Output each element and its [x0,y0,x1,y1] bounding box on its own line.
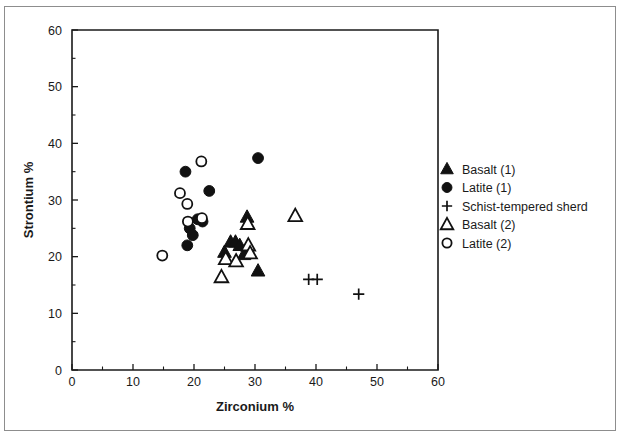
data-point [183,217,193,227]
data-point [253,153,264,164]
y-tick-label: 0 [55,364,62,378]
data-point [180,166,191,177]
data-point [251,264,265,276]
x-tick-label: 0 [69,375,76,389]
legend-item: Basalt (1) [441,162,516,176]
scatter-plot: 0102030405060 0102030405060 Basalt (1)La… [0,0,624,445]
data-point [204,186,215,197]
figure-container: 0102030405060 0102030405060 Basalt (1)La… [0,0,624,445]
series-schist-tempered-sherd [303,274,364,300]
x-tick-label: 30 [248,375,262,389]
data-point [182,199,192,209]
legend-marker-filled-triangle [441,162,454,173]
x-tick-labels: 0102030405060 [69,375,445,389]
data-points [157,153,364,300]
legend-marker-plus [442,201,452,211]
legend-label: Latite (2) [462,237,511,251]
x-tick-label: 60 [431,375,445,389]
legend: Basalt (1)Latite (1)Schist-tempered sher… [441,162,588,250]
axis-ticks [72,30,438,370]
legend-item: Latite (1) [442,181,511,195]
y-tick-labels: 0102030405060 [48,24,62,378]
data-point [197,213,207,223]
y-tick-label: 40 [48,137,62,151]
axes-group [72,30,438,370]
x-axis-title: Zirconium % [216,399,294,414]
plot-frame [72,30,438,370]
data-point [157,251,167,261]
data-point [175,188,185,198]
y-tick-label: 50 [48,80,62,94]
x-tick-label: 40 [309,375,323,389]
y-tick-label: 60 [48,24,62,38]
data-point [215,270,229,282]
data-point [312,274,323,285]
data-point [353,288,364,299]
legend-marker-open-circle [442,238,451,247]
y-axis-title: Strontium % [21,161,36,238]
y-tick-label: 10 [48,307,62,321]
x-tick-label: 10 [126,375,140,389]
legend-item: Latite (2) [442,237,511,251]
legend-label: Basalt (2) [462,218,516,232]
x-tick-label: 20 [187,375,201,389]
data-point [182,240,193,251]
data-point [288,209,302,221]
legend-label: Schist-tempered sherd [462,200,588,214]
data-point [187,230,198,241]
legend-label: Latite (1) [462,181,511,195]
legend-marker-open-triangle [441,218,454,229]
legend-marker-filled-circle [442,183,452,193]
y-tick-label: 20 [48,250,62,264]
data-point [196,156,206,166]
y-tick-label: 30 [48,194,62,208]
x-tick-label: 50 [370,375,384,389]
legend-label: Basalt (1) [462,163,516,177]
legend-item: Basalt (2) [441,218,516,232]
legend-item: Schist-tempered sherd [442,200,588,214]
